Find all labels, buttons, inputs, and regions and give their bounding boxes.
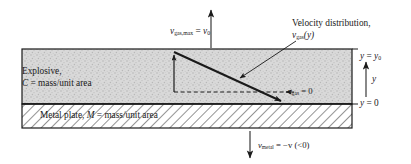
label-metal-plate: Metal plate, M = mass/unit area (40, 110, 158, 121)
label-velocity-distribution-line1: Velocity distribution, (292, 18, 371, 28)
label-v-gas-max-equals: = (193, 26, 203, 36)
label-vgas-subscript: gas (296, 34, 304, 40)
label-explosive-line1: Explosive, (22, 66, 62, 76)
label-velocity-distribution: Velocity distribution, vgas(y) (292, 18, 371, 41)
label-v-gas-zero-subscript: gas (292, 90, 299, 96)
label-y-axis: y (372, 74, 376, 85)
figure-canvas: vgas,max = v0 Velocity distribution, vga… (0, 0, 411, 164)
label-v-gas-max: vgas,max = v0 (170, 26, 210, 37)
label-y-equals-zero-value: = 0 (364, 98, 379, 108)
label-y-equals-zero: y = 0 (360, 98, 379, 109)
label-y-equals-y0: y = y0 (360, 51, 381, 62)
label-v-gas-zero-value: = 0 (299, 86, 313, 96)
label-explosive: Explosive, C = mass/unit area (22, 66, 92, 89)
label-v-gas-zero: vgas = 0 (288, 86, 313, 96)
label-v-metal-value: = −v (<0) (274, 140, 310, 150)
label-v-metal-subscript: metal (262, 144, 274, 150)
label-vgas-argument: (y) (304, 30, 314, 40)
label-y-equals-y0-equals: = (364, 51, 374, 61)
label-velocity-distribution-line2: vgas(y) (292, 30, 371, 41)
label-metal-plate-m-definition: = mass/unit area (94, 110, 157, 120)
label-v-metal: vmetal = −v (<0) (258, 140, 310, 150)
label-y-axis-symbol: y (372, 74, 376, 84)
label-explosive-c-definition: = mass/unit area (28, 78, 91, 88)
label-explosive-line2: C = mass/unit area (22, 78, 92, 89)
label-y-equals-y0-subscript: 0 (378, 55, 381, 61)
label-v-gas-max-subscript: gas,max (174, 30, 193, 36)
label-metal-plate-prefix: Metal plate, (40, 110, 87, 120)
label-v-gas-max-value-subscript: 0 (207, 30, 210, 36)
